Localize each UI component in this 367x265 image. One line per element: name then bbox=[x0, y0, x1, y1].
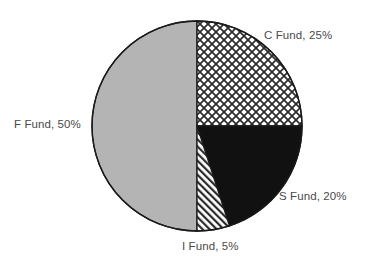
pie-label-c-fund: C Fund, 25% bbox=[264, 29, 332, 42]
pie-slice-f-fund bbox=[92, 21, 197, 231]
pie-label-s-fund: S Fund, 20% bbox=[279, 190, 347, 203]
pie-label-f-fund: F Fund, 50% bbox=[14, 118, 81, 131]
pie-label-i-fund: I Fund, 5% bbox=[182, 240, 239, 253]
pie-chart: C Fund, 25% F Fund, 50% S Fund, 20% I Fu… bbox=[0, 0, 367, 265]
